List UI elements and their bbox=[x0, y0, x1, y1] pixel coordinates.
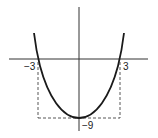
label-neg3: −3 bbox=[24, 62, 35, 72]
label-3: 3 bbox=[123, 62, 129, 72]
label-neg9: −9 bbox=[82, 121, 93, 131]
